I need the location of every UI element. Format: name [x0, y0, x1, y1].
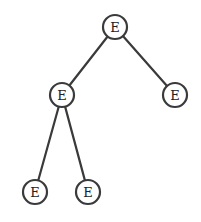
tree-node-n1: E — [50, 83, 74, 107]
tree-edge-n0-n1 — [69, 36, 107, 85]
node-label: E — [110, 20, 120, 35]
tree-edge-n1-n4 — [65, 107, 85, 181]
tree-edge-n0-n2 — [123, 36, 167, 86]
tree-node-n0: E — [103, 15, 127, 39]
node-label: E — [170, 88, 180, 103]
tree-edge-n1-n3 — [38, 107, 59, 181]
edges-group — [38, 36, 167, 180]
node-label: E — [83, 185, 93, 200]
tree-node-n3: E — [23, 180, 47, 204]
node-label: E — [30, 185, 40, 200]
tree-diagram: EEEEE — [0, 0, 201, 222]
node-label: E — [57, 88, 67, 103]
nodes-group: EEEEE — [23, 15, 187, 204]
tree-node-n2: E — [163, 83, 187, 107]
tree-node-n4: E — [76, 180, 100, 204]
